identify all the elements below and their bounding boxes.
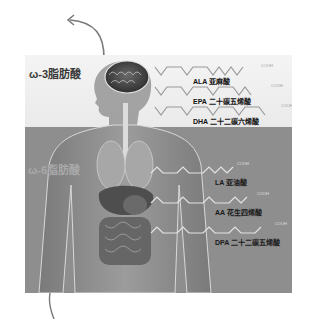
dpa-label: DPA 二十二碳五烯酸 <box>215 237 280 247</box>
svg-text:COOH: COOH <box>237 161 249 166</box>
omega6-heading: ω-6脂肪酸 <box>28 161 80 177</box>
svg-text:COOH: COOH <box>281 103 292 108</box>
la-label: LA 亚油酸 <box>215 177 247 187</box>
fatty-acid-diagram: COOH COOH COOH COOH COOH COOH ω-3脂肪酸 ω-6… <box>25 55 292 293</box>
epa-label: EPA 二十碳五烯酸 <box>193 96 251 106</box>
svg-text:COOH: COOH <box>257 191 269 196</box>
aa-label: AA 花生四烯酸 <box>215 207 262 217</box>
svg-text:COOH: COOH <box>275 221 287 226</box>
svg-text:COOH: COOH <box>261 63 273 68</box>
ala-label: ALA 亚麻酸 <box>193 76 230 86</box>
svg-text:COOH: COOH <box>271 83 283 88</box>
dha-label: DHA 二十二碳六烯酸 <box>193 116 259 126</box>
omega3-heading: ω-3脂肪酸 <box>29 65 81 81</box>
arrow-up-icon <box>60 14 110 60</box>
